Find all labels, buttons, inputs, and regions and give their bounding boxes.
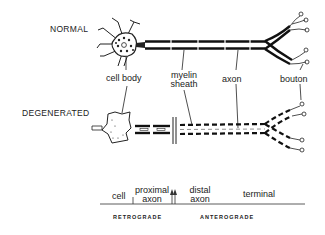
label-sheath: sheath: [168, 79, 200, 89]
row-label-degenerated: DEGENERATED: [22, 108, 89, 118]
scale-label-cell: cell: [112, 191, 126, 201]
scale-label-retrograde: RETROGRADE: [113, 212, 162, 222]
scale-label-proximal-axon: axon: [133, 194, 171, 204]
scale-label-terminal: terminal: [243, 189, 275, 199]
normal-neuron: [97, 12, 309, 66]
scale-label-distal-axon: axon: [183, 194, 217, 204]
scale-label-anterograde: ANTEROGRADE: [200, 212, 254, 222]
degenerated-neuron: [92, 102, 306, 152]
label-cell-body: cell body: [106, 73, 142, 83]
label-bouton: bouton: [280, 74, 308, 84]
label-axon: axon: [222, 74, 242, 84]
leader-lines-degenerated: [122, 84, 301, 128]
row-label-normal: NORMAL: [50, 24, 88, 34]
leader-lines-normal: [126, 50, 303, 70]
